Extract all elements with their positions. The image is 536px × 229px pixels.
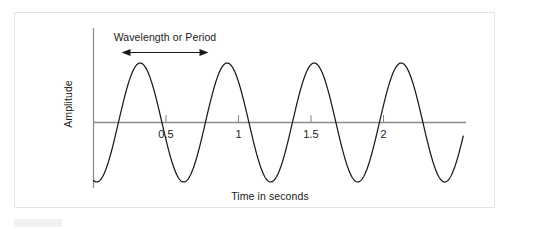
x-tick-label-3: 2	[364, 128, 404, 140]
x-axis-title: Time in seconds	[205, 190, 335, 202]
x-tick-label-2: 1.5	[291, 128, 331, 140]
arrowhead-right	[200, 49, 209, 56]
x-tick-label-1: 1	[219, 128, 259, 140]
figure-root: Wavelength or Period Amplitude Time in s…	[0, 0, 536, 229]
wavelength-annotation-label: Wavelength or Period	[110, 31, 220, 43]
wavelength-span-arrow	[122, 49, 209, 56]
x-axis-ticks	[166, 115, 384, 122]
arrowhead-left	[122, 49, 131, 56]
y-axis-title: Amplitude	[62, 34, 74, 174]
x-tick-label-0: 0.5	[146, 128, 186, 140]
